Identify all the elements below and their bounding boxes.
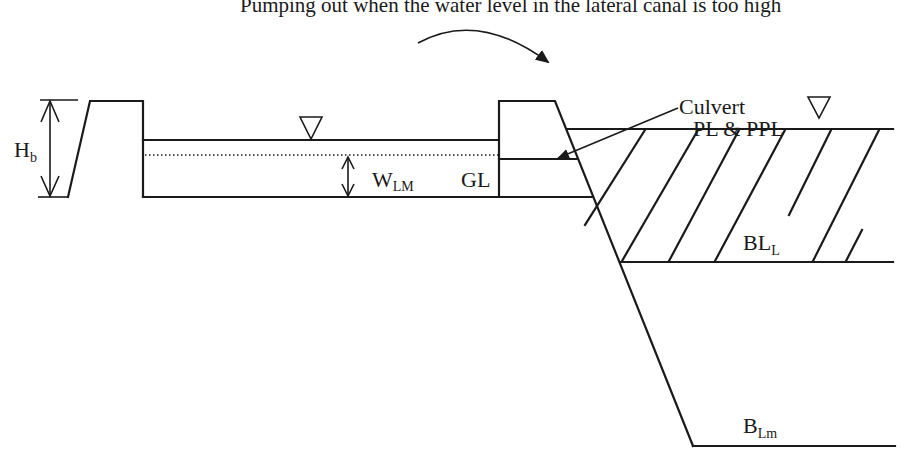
bll-label: BLL bbox=[743, 230, 780, 258]
lateral-water-level-triangle-icon bbox=[808, 97, 830, 118]
curved-pumping-arrow-icon bbox=[418, 30, 548, 62]
wlm-dimension bbox=[342, 157, 354, 196]
wlm-label: WLM bbox=[372, 167, 414, 194]
hb-label: Hb bbox=[14, 137, 37, 165]
canal-cross-section-diagram: Pumping out when the water level in the … bbox=[0, 0, 910, 474]
culvert-pointer-arrow-icon bbox=[558, 108, 678, 158]
left-dike bbox=[68, 101, 143, 197]
water-level-triangle-icon bbox=[300, 117, 322, 139]
pumping-caption: Pumping out when the water level in the … bbox=[240, 0, 782, 17]
right-dike-and-slope bbox=[499, 101, 693, 446]
gl-label: GL bbox=[461, 167, 490, 192]
soil-hatching bbox=[585, 130, 879, 261]
blm-label: BLm bbox=[743, 413, 777, 441]
